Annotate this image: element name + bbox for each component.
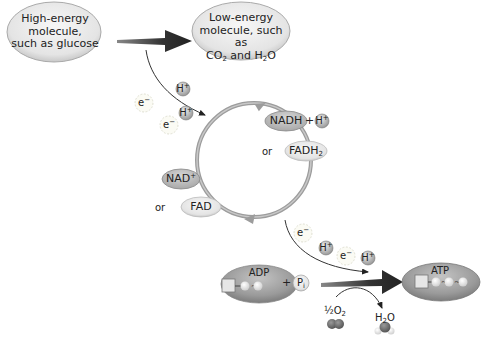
water-label: H2O	[372, 312, 398, 324]
nad-label: NAD+	[162, 173, 200, 185]
or-label: or	[153, 202, 167, 214]
energy-release-arrow	[117, 30, 192, 52]
electron-label: e−	[137, 97, 151, 109]
proton-label: H+	[319, 242, 333, 254]
nadh-label: NADH	[266, 115, 306, 127]
proton-label: H+	[176, 83, 190, 95]
electron-label: e−	[339, 250, 353, 262]
electron-label: e−	[162, 119, 176, 131]
high-energy-label: High-energy molecule, such as glucose	[9, 13, 101, 51]
phosphate-label: Pi	[294, 277, 308, 289]
proton-label: H+	[179, 107, 193, 119]
oxygen-molecule	[327, 319, 344, 329]
adp-label: ADP	[246, 267, 272, 279]
electron-label: e−	[296, 227, 310, 239]
plus-sign: +	[305, 115, 313, 127]
fad-label: FAD	[182, 201, 220, 213]
half-oxygen-label: ½O2	[322, 305, 348, 317]
atp-synthesis-arrow	[321, 270, 403, 294]
low-energy-label: Low-energy molecule, such as CO2 and H2O	[193, 12, 289, 62]
proton-label: H+	[361, 252, 375, 264]
or-label: or	[260, 146, 274, 158]
proton-label: H+	[315, 115, 329, 127]
fadh2-label: FADH2	[286, 145, 326, 157]
atp-label: ATP	[427, 265, 453, 277]
plus-sign: +	[282, 277, 290, 289]
